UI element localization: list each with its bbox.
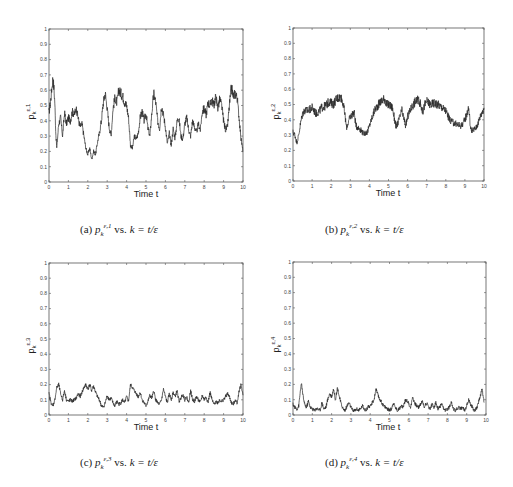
plot-area-d: 01234567891000.10.20.30.40.50.60.70.80.9…: [0, 0, 513, 487]
y-tick-label: 1: [288, 259, 291, 265]
x-tick-label: 3: [350, 417, 353, 423]
subplot-d: 01234567891000.10.20.30.40.50.60.70.80.9…: [0, 0, 513, 487]
x-tick-label: 1: [311, 417, 314, 423]
x-tick-label: 7: [427, 417, 430, 423]
y-tick-label: 0.4: [284, 351, 291, 357]
x-tick-label: 9: [465, 417, 468, 423]
y-tick-label: 0: [288, 412, 291, 418]
y-tick-label: 0.7: [284, 305, 291, 311]
y-tick-label: 0.6: [284, 320, 291, 326]
x-tick-label: 10: [483, 417, 489, 423]
y-tick-label: 0.8: [284, 289, 291, 295]
x-tick-label: 2: [330, 417, 333, 423]
y-tick-label: 0.9: [284, 274, 291, 280]
data-line: [293, 384, 484, 412]
caption-d: (d) pkε,4 vs. k = t/ε: [325, 455, 404, 471]
y-tick-label: 0.3: [284, 366, 291, 372]
x-tick-label: 0: [292, 417, 295, 423]
y-tick-label: 0.2: [284, 381, 291, 387]
x-axis-label-d: Time t: [358, 422, 418, 432]
y-tick-label: 0.5: [284, 335, 291, 341]
axes-frame: [293, 262, 486, 415]
y-axis-label-d: pkε,4: [270, 322, 283, 352]
x-tick-label: 8: [446, 417, 449, 423]
y-tick-label: 0.1: [284, 397, 291, 403]
